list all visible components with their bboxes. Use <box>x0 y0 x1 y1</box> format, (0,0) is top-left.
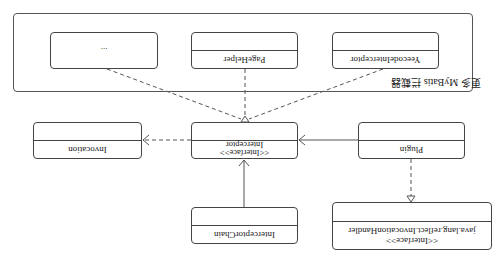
realization-line-ellipsis <box>107 69 241 119</box>
realization-arrowhead <box>241 116 249 122</box>
realization-arrowhead <box>407 196 415 202</box>
uml-class-diagram: 更多 MyBatis 拦截器 ... PageHelper YeecodeInt… <box>0 0 503 264</box>
realization-line-yeecode <box>249 69 383 119</box>
relation-lines <box>0 0 503 264</box>
